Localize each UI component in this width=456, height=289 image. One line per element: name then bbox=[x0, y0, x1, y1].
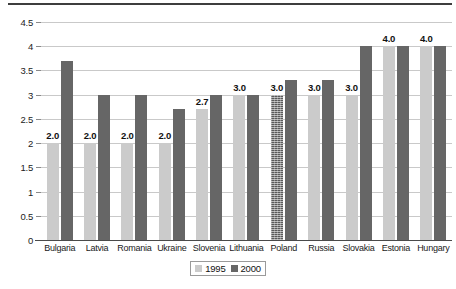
x-axis-labels: BulgariaLatviaRomaniaUkraineSloveniaLith… bbox=[41, 243, 452, 253]
bar-group: 3.0 bbox=[228, 22, 265, 240]
bar-poland-2000 bbox=[285, 80, 297, 240]
y-tick-label: 1 bbox=[28, 186, 33, 197]
x-axis-label-ukraine: Ukraine bbox=[153, 243, 190, 253]
bar-value-label: 3.0 bbox=[233, 82, 246, 93]
y-tick-label: 1.5 bbox=[20, 162, 33, 173]
bar-group: 2.0 bbox=[78, 22, 115, 240]
bar-value-label: 2.0 bbox=[121, 130, 134, 141]
bar-slovenia-1995: 2.7 bbox=[196, 109, 208, 240]
legend-label-2000: 2000 bbox=[241, 263, 261, 274]
bar-group: 2.0 bbox=[153, 22, 190, 240]
bar-lithuania-1995: 3.0 bbox=[233, 95, 245, 240]
bar-group: 3.0 bbox=[340, 22, 377, 240]
bar-bulgaria-2000 bbox=[61, 61, 73, 240]
bar-value-label: 2.7 bbox=[196, 96, 209, 107]
x-axis-label-romania: Romania bbox=[116, 243, 153, 253]
legend-item-2000: 2000 bbox=[231, 263, 261, 274]
x-axis-label-estonia: Estonia bbox=[377, 243, 414, 253]
bar-value-label: 4.0 bbox=[383, 33, 396, 44]
bar-slovakia-2000 bbox=[360, 46, 372, 240]
y-tick-label: 4 bbox=[28, 41, 33, 52]
bar-group: 4.0 bbox=[415, 22, 452, 240]
x-axis-label-slovenia: Slovenia bbox=[190, 243, 227, 253]
legend-label-1995: 1995 bbox=[205, 263, 225, 274]
x-axis-label-hungary: Hungary bbox=[415, 243, 452, 253]
bar-romania-2000 bbox=[135, 95, 147, 240]
bar-value-label: 3.0 bbox=[308, 82, 321, 93]
bar-group: 3.0 bbox=[303, 22, 340, 240]
x-axis-label-latvia: Latvia bbox=[78, 243, 115, 253]
bar-chart: 00.511.522.533.544.5 2.02.02.02.02.73.03… bbox=[0, 0, 456, 289]
bar-value-label: 3.0 bbox=[345, 82, 358, 93]
bar-group: 2.7 bbox=[190, 22, 227, 240]
legend-swatch-1995 bbox=[195, 265, 202, 272]
x-axis-label-poland: Poland bbox=[265, 243, 302, 253]
x-axis-label-bulgaria: Bulgaria bbox=[41, 243, 78, 253]
bar-latvia-2000 bbox=[98, 95, 110, 240]
bar-romania-1995: 2.0 bbox=[121, 143, 133, 240]
legend-swatch-2000 bbox=[231, 265, 238, 272]
bar-group: 2.0 bbox=[116, 22, 153, 240]
bar-poland-1995: 3.0 bbox=[271, 95, 283, 240]
bar-value-label: 2.0 bbox=[84, 130, 97, 141]
bar-hungary-1995: 4.0 bbox=[420, 46, 432, 240]
bar-lithuania-2000 bbox=[247, 95, 259, 240]
legend-box: 19952000 bbox=[190, 261, 266, 276]
y-tick-label: 4.5 bbox=[20, 17, 33, 28]
bar-estonia-1995: 4.0 bbox=[383, 46, 395, 240]
y-tick-label: 0.5 bbox=[20, 210, 33, 221]
plot-area: 00.511.522.533.544.5 2.02.02.02.02.73.03… bbox=[41, 22, 452, 240]
bar-hungary-2000 bbox=[434, 46, 446, 240]
bar-latvia-1995: 2.0 bbox=[84, 143, 96, 240]
bar-group: 2.0 bbox=[41, 22, 78, 240]
x-axis-label-lithuania: Lithuania bbox=[228, 243, 265, 253]
legend-item-1995: 1995 bbox=[195, 263, 225, 274]
bar-groups: 2.02.02.02.02.73.03.03.03.04.04.0 bbox=[41, 22, 452, 240]
legend: 19952000 bbox=[0, 261, 456, 276]
bar-value-label: 2.0 bbox=[46, 130, 59, 141]
bar-russia-2000 bbox=[322, 80, 334, 240]
bar-ukraine-1995: 2.0 bbox=[159, 143, 171, 240]
bar-value-label: 3.0 bbox=[271, 82, 284, 93]
bar-bulgaria-1995: 2.0 bbox=[47, 143, 59, 240]
y-tick-label: 2 bbox=[28, 138, 33, 149]
x-axis-label-russia: Russia bbox=[303, 243, 340, 253]
bar-value-label: 2.0 bbox=[158, 130, 171, 141]
y-tick-label: 3 bbox=[28, 89, 33, 100]
bar-group: 3.0 bbox=[265, 22, 302, 240]
y-tick-label: 2.5 bbox=[20, 113, 33, 124]
y-tick-label: 0 bbox=[28, 235, 33, 246]
x-axis-label-slovakia: Slovakia bbox=[340, 243, 377, 253]
bar-value-label: 4.0 bbox=[420, 33, 433, 44]
bar-estonia-2000 bbox=[397, 46, 409, 240]
bar-slovenia-2000 bbox=[210, 95, 222, 240]
top-rule-divider bbox=[8, 3, 452, 5]
bar-slovakia-1995: 3.0 bbox=[346, 95, 358, 240]
bar-group: 4.0 bbox=[377, 22, 414, 240]
bar-ukraine-2000 bbox=[173, 109, 185, 240]
bar-russia-1995: 3.0 bbox=[308, 95, 320, 240]
y-tick-label: 3.5 bbox=[20, 65, 33, 76]
